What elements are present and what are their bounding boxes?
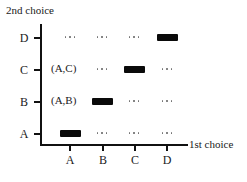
x-tick-label-b: B xyxy=(95,154,111,166)
preference-grid-figure: 2nd choice 1st choice D C B A A B C D (A… xyxy=(0,0,247,182)
dots-glyph xyxy=(97,36,108,38)
y-tick-d xyxy=(34,37,41,39)
dots-glyph xyxy=(97,68,108,70)
y-tick-a xyxy=(34,133,41,135)
cell-d-a xyxy=(154,126,180,140)
x-tick-b xyxy=(102,145,104,151)
dots-glyph xyxy=(129,132,140,134)
cell-c-a xyxy=(121,126,147,140)
cell-c-c-bar xyxy=(121,62,147,76)
cell-a-c-label: (A,C) xyxy=(51,62,76,74)
cell-c-b xyxy=(121,94,147,108)
y-tick-b xyxy=(34,101,41,103)
cell-b-b-bar xyxy=(89,94,115,108)
dots-glyph xyxy=(129,36,140,38)
x-tick-label-c: C xyxy=(127,154,143,166)
cell-a-b-label: (A,B) xyxy=(51,94,76,106)
x-tick-d xyxy=(166,145,168,151)
dots-glyph xyxy=(162,132,173,134)
y-tick-label-c: C xyxy=(17,64,31,76)
cell-d-b xyxy=(154,94,180,108)
cell-d-c xyxy=(154,62,180,76)
y-axis-line xyxy=(40,24,42,146)
x-axis-title: 1st choice xyxy=(189,138,233,151)
y-axis-title: 2nd choice xyxy=(6,4,54,17)
dots-glyph xyxy=(162,100,173,102)
y-tick-c xyxy=(34,69,41,71)
x-tick-a xyxy=(69,145,71,151)
dots-glyph xyxy=(129,100,140,102)
cell-b-d xyxy=(89,30,115,44)
x-tick-label-d: D xyxy=(159,154,175,166)
dots-glyph xyxy=(97,132,108,134)
dots-glyph xyxy=(162,68,173,70)
cell-d-d-bar xyxy=(154,30,180,44)
dots-glyph xyxy=(65,36,76,38)
cell-a-d xyxy=(57,30,83,44)
x-tick-label-a: A xyxy=(62,154,78,166)
cell-c-d xyxy=(121,30,147,44)
x-tick-c xyxy=(134,145,136,151)
y-tick-label-a: A xyxy=(17,128,31,140)
y-tick-label-b: B xyxy=(17,96,31,108)
y-tick-label-d: D xyxy=(17,32,31,44)
cell-a-a-bar xyxy=(57,126,83,140)
cell-b-c xyxy=(89,62,115,76)
cell-b-a xyxy=(89,126,115,140)
